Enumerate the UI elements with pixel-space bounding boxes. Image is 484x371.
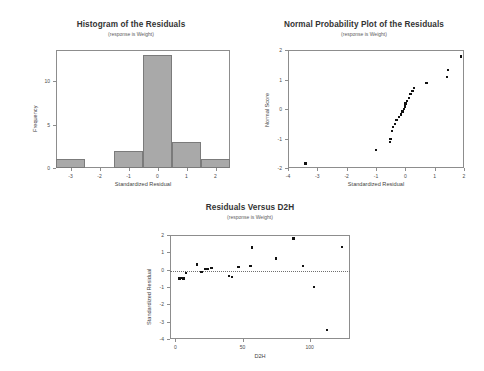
- y-tick-mark: [53, 81, 56, 82]
- residuals-d2h-plot-area: 050100 -4-3-2-1012 D2H Standardized Resi…: [130, 203, 370, 371]
- chart-panel-histogram: Histogram of the Residuals (response is …: [18, 20, 244, 200]
- y-tick-mark: [167, 322, 170, 323]
- x-tick-label: -3: [68, 173, 72, 179]
- data-point: [375, 149, 377, 151]
- x-tick-mark: [100, 168, 101, 171]
- data-point: [185, 272, 187, 274]
- data-point: [460, 55, 462, 57]
- x-tick-mark: [158, 168, 159, 171]
- histogram-bar: [201, 159, 230, 168]
- y-tick-label: 2: [148, 232, 164, 238]
- x-tick-label: 2: [214, 173, 217, 179]
- histogram-bar: [56, 159, 85, 168]
- normal-plot-y-axis-title: Normal Score: [264, 93, 270, 127]
- y-tick-mark: [167, 252, 170, 253]
- data-point: [398, 116, 400, 118]
- x-tick-label: 1: [185, 173, 188, 179]
- data-point: [292, 237, 294, 239]
- data-point: [196, 263, 198, 265]
- data-point: [206, 268, 208, 270]
- histogram-plot-area: -3-2-1012 0510 Standardized Residual Fre…: [18, 20, 244, 200]
- y-tick-mark: [167, 235, 170, 236]
- normal-plot-area: -4-3-2-1012 -2-1012 Standardized Residua…: [250, 20, 478, 200]
- chart-panel-normal-probability: Normal Probability Plot of the Residuals…: [250, 20, 478, 200]
- data-point: [302, 265, 304, 267]
- x-tick-mark: [435, 168, 436, 171]
- data-point: [403, 108, 405, 110]
- data-point: [237, 266, 239, 268]
- data-point: [392, 126, 394, 128]
- zero-reference-line: [170, 271, 350, 272]
- data-point: [326, 329, 328, 331]
- y-tick-mark: [285, 109, 288, 110]
- x-tick-mark: [216, 168, 217, 171]
- y-tick-label: 2: [266, 47, 282, 53]
- x-tick-mark: [71, 168, 72, 171]
- data-point: [411, 90, 413, 92]
- data-point: [409, 93, 411, 95]
- y-tick-mark: [285, 50, 288, 51]
- x-tick-label: 50: [240, 344, 246, 350]
- data-point: [395, 119, 397, 121]
- x-tick-mark: [243, 339, 244, 342]
- x-tick-mark: [464, 168, 465, 171]
- chart-panel-residuals-versus-d2h: Residuals Versus D2H (response is Weight…: [130, 203, 370, 371]
- histogram-y-axis-title: Frequency: [32, 106, 38, 132]
- data-point: [210, 267, 212, 269]
- histogram-bar: [143, 55, 172, 168]
- x-tick-label: -1: [126, 173, 130, 179]
- data-point: [406, 100, 408, 102]
- data-point: [275, 257, 277, 259]
- data-point: [389, 138, 391, 140]
- data-point: [425, 82, 427, 84]
- y-tick-label: -2: [266, 165, 282, 171]
- data-point: [404, 102, 406, 104]
- x-tick-mark: [376, 168, 377, 171]
- x-tick-mark: [347, 168, 348, 171]
- y-tick-mark: [53, 168, 56, 169]
- data-point: [231, 276, 233, 278]
- x-tick-mark: [129, 168, 130, 171]
- y-tick-mark: [53, 125, 56, 126]
- y-tick-mark: [285, 139, 288, 140]
- y-tick-label: 10: [34, 78, 50, 84]
- normal-plot-x-axis-title: Standardized Residual: [348, 181, 404, 187]
- y-tick-mark: [167, 287, 170, 288]
- x-tick-label: 0: [404, 173, 407, 179]
- x-tick-label: -2: [344, 173, 348, 179]
- x-tick-mark: [317, 168, 318, 171]
- x-tick-label: 2: [463, 173, 466, 179]
- y-tick-label: -1: [266, 136, 282, 142]
- x-tick-label: -3: [315, 173, 319, 179]
- y-tick-label: 0: [34, 165, 50, 171]
- data-point: [201, 271, 203, 273]
- data-point: [341, 246, 343, 248]
- x-tick-label: -4: [286, 173, 290, 179]
- residuals-d2h-plot-frame: [170, 235, 350, 339]
- y-tick-mark: [285, 168, 288, 169]
- residuals-d2h-y-axis-title: Standardized Residual: [146, 269, 152, 325]
- y-tick-label: 1: [266, 77, 282, 83]
- x-tick-label: 1: [433, 173, 436, 179]
- data-point: [249, 265, 251, 267]
- histogram-bar: [114, 151, 143, 168]
- data-point: [400, 113, 402, 115]
- x-tick-mark: [288, 168, 289, 171]
- data-point: [446, 76, 448, 78]
- y-tick-mark: [285, 80, 288, 81]
- data-point: [389, 141, 391, 143]
- data-point: [313, 286, 315, 288]
- data-point: [251, 246, 253, 248]
- y-tick-mark: [167, 304, 170, 305]
- data-point: [413, 87, 415, 89]
- x-tick-mark: [405, 168, 406, 171]
- x-tick-label: -1: [374, 173, 378, 179]
- y-tick-mark: [167, 270, 170, 271]
- x-tick-label: 0: [156, 173, 159, 179]
- x-tick-mark: [187, 168, 188, 171]
- data-point: [182, 277, 184, 279]
- histogram-bar: [172, 142, 201, 168]
- data-point: [401, 110, 403, 112]
- x-tick-mark: [310, 339, 311, 342]
- x-tick-label: 100: [306, 344, 314, 350]
